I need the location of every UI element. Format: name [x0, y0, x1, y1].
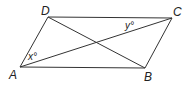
vertex-label-c: C [173, 5, 182, 19]
vertex-label-a: A [8, 68, 17, 82]
vertex-label-d: D [41, 4, 50, 18]
angle-label-y: y° [124, 20, 134, 31]
parallelogram-diagram: D C A B x° y° [0, 0, 187, 88]
angle-label-x: x° [27, 51, 37, 62]
vertex-label-b: B [144, 70, 152, 84]
diagram-canvas: D C A B x° y° [0, 0, 187, 88]
